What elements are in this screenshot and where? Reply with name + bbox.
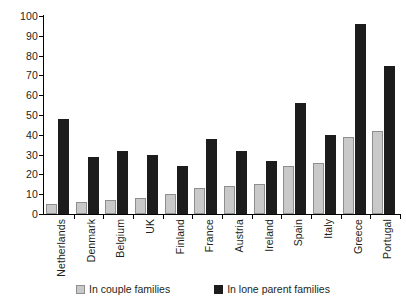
bar-in-lone-parent-families — [266, 161, 277, 214]
x-axis-category-label-text: Spain — [293, 219, 304, 246]
y-axis-tick-label: 70 — [4, 70, 38, 80]
x-axis-category-label-text: Portugal — [382, 219, 393, 259]
x-axis-category-label-text: Ireland — [264, 219, 275, 252]
bar-in-lone-parent-families — [295, 103, 306, 214]
x-axis-category-label: France — [204, 219, 215, 252]
y-axis-tick-label: 50 — [4, 110, 38, 120]
x-axis-category-label-text: Greece — [353, 219, 364, 254]
bar-group — [135, 16, 165, 214]
legend-item: In couple families — [76, 283, 170, 295]
bar-in-lone-parent-families — [147, 155, 158, 214]
bar-in-lone-parent-families — [88, 157, 99, 214]
bar-group — [76, 16, 106, 214]
x-axis-category-label: Belgium — [115, 219, 126, 258]
bar-in-couple-families — [46, 204, 57, 214]
legend-swatch-lone — [214, 285, 223, 294]
x-axis-category-label: Italy — [323, 219, 334, 239]
x-axis-category-label-text: Austria — [234, 219, 245, 252]
bar-group — [105, 16, 135, 214]
bar-in-couple-families — [343, 137, 354, 214]
x-axis-category-label-text: Finland — [175, 219, 186, 254]
bar-in-lone-parent-families — [355, 24, 366, 214]
bar-group — [283, 16, 313, 214]
y-axis-tick-label: 60 — [4, 90, 38, 100]
bar-chart: 1009080706050403020100 NetherlandsDenmar… — [0, 0, 406, 304]
y-axis-tick-labels: 1009080706050403020100 — [0, 0, 38, 304]
y-axis-tick-mark — [39, 214, 44, 215]
x-axis-tick-mark — [400, 215, 401, 219]
bar-group — [254, 16, 284, 214]
y-axis-tick-label: 20 — [4, 169, 38, 179]
x-axis-category-label-text: France — [204, 219, 215, 252]
legend-swatch-couple — [76, 285, 85, 294]
x-axis-category-label: Portugal — [382, 219, 393, 259]
bar-group — [165, 16, 195, 214]
x-axis-category-label: Finland — [175, 219, 186, 254]
bar-group — [313, 16, 343, 214]
bar-in-couple-families — [313, 163, 324, 214]
legend-label: In couple families — [89, 283, 170, 295]
x-axis-category-labels: NetherlandsDenmarkBelgiumUKFinlandFrance… — [44, 219, 400, 277]
bar-in-couple-families — [254, 184, 265, 214]
legend-item: In lone parent families — [214, 283, 330, 295]
y-axis-tick-label: 90 — [4, 31, 38, 41]
x-axis-category-label-text: Italy — [323, 219, 334, 239]
x-axis-category-label-text: UK — [145, 219, 156, 234]
y-axis-tick-label: 0 — [4, 209, 38, 219]
y-axis-tick-label: 80 — [4, 51, 38, 61]
y-axis-tick-label: 100 — [4, 11, 38, 21]
bar-in-couple-families — [283, 166, 294, 214]
legend-label: In lone parent families — [227, 283, 330, 295]
bar-in-couple-families — [224, 186, 235, 214]
chart-legend: In couple familiesIn lone parent familie… — [0, 281, 406, 297]
x-axis-category-label: Spain — [293, 219, 304, 246]
x-axis-category-label: Denmark — [86, 219, 97, 262]
bar-in-lone-parent-families — [177, 166, 188, 214]
bar-in-lone-parent-families — [117, 151, 128, 214]
bar-in-lone-parent-families — [384, 66, 395, 215]
bar-group — [343, 16, 373, 214]
bar-group — [372, 16, 402, 214]
x-axis-category-label: Greece — [353, 219, 364, 254]
bar-group — [224, 16, 254, 214]
bar-group — [46, 16, 76, 214]
x-axis-category-label: Ireland — [264, 219, 275, 252]
y-axis-tick-label: 10 — [4, 189, 38, 199]
bar-in-lone-parent-families — [325, 135, 336, 214]
x-axis-category-label: Austria — [234, 219, 245, 252]
bar-in-couple-families — [165, 194, 176, 214]
y-axis-tick-label: 40 — [4, 130, 38, 140]
x-axis-category-label: UK — [145, 219, 156, 234]
bar-in-couple-families — [194, 188, 205, 214]
bar-in-couple-families — [135, 198, 146, 214]
y-axis-tick-label: 30 — [4, 150, 38, 160]
x-axis-category-label-text: Belgium — [115, 219, 126, 258]
bar-in-lone-parent-families — [206, 139, 217, 214]
x-axis-category-label-text: Denmark — [86, 219, 97, 262]
bar-in-couple-families — [76, 202, 87, 214]
x-axis-category-label-text: Netherlands — [56, 219, 67, 277]
bar-in-couple-families — [372, 131, 383, 214]
plot-area — [44, 16, 400, 214]
bar-in-couple-families — [105, 200, 116, 214]
bar-group — [194, 16, 224, 214]
x-axis-category-label: Netherlands — [56, 219, 67, 277]
bar-in-lone-parent-families — [236, 151, 247, 214]
bar-in-lone-parent-families — [58, 119, 69, 214]
